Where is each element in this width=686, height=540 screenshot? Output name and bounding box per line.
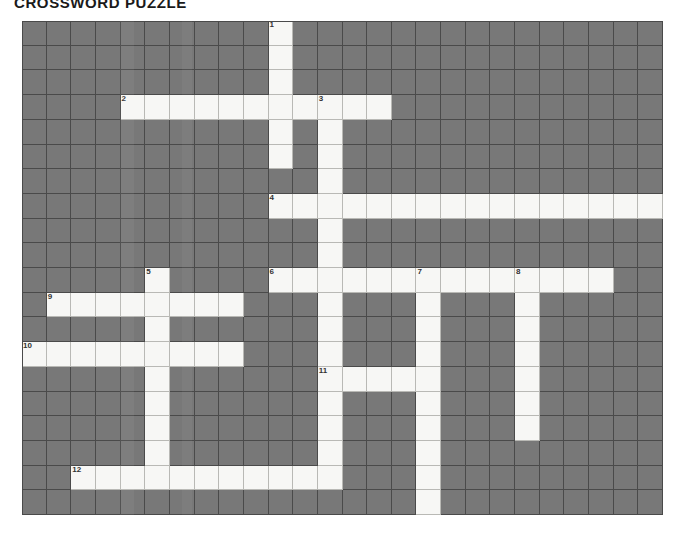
grid-cell-open[interactable] — [145, 342, 170, 367]
grid-cell-open[interactable] — [170, 342, 195, 367]
grid-cell-open[interactable] — [416, 466, 441, 491]
grid-cell-open[interactable] — [219, 95, 244, 120]
crossword-grid[interactable]: 123456789101112 — [22, 21, 663, 515]
grid-cell-open[interactable] — [121, 293, 146, 318]
grid-cell-open[interactable] — [71, 293, 96, 318]
grid-cell-open[interactable] — [145, 466, 170, 491]
grid-cell-open[interactable]: 1 — [269, 21, 294, 46]
grid-cell-open[interactable] — [145, 293, 170, 318]
grid-cell-open[interactable] — [515, 367, 540, 392]
grid-cell-open[interactable] — [47, 342, 72, 367]
grid-cell-open[interactable] — [318, 145, 343, 170]
grid-cell-open[interactable] — [490, 194, 515, 219]
grid-cell-open[interactable] — [466, 194, 491, 219]
grid-cell-open[interactable] — [219, 342, 244, 367]
grid-cell-open[interactable] — [170, 95, 195, 120]
grid-cell-open[interactable] — [318, 243, 343, 268]
grid-cell-open[interactable] — [96, 342, 121, 367]
grid-cell-open[interactable] — [318, 219, 343, 244]
grid-cell-open[interactable]: 3 — [318, 95, 343, 120]
grid-cell-open[interactable] — [145, 317, 170, 342]
grid-cell-open[interactable] — [318, 342, 343, 367]
grid-cell-open[interactable] — [170, 466, 195, 491]
grid-cell-open[interactable] — [145, 95, 170, 120]
grid-cell-open[interactable] — [195, 95, 220, 120]
grid-cell-open[interactable] — [269, 120, 294, 145]
grid-cell-open[interactable] — [416, 342, 441, 367]
grid-cell-open[interactable] — [441, 268, 466, 293]
grid-cell-open[interactable] — [515, 317, 540, 342]
grid-cell-open[interactable] — [564, 194, 589, 219]
grid-cell-open[interactable] — [367, 367, 392, 392]
grid-cell-open[interactable] — [318, 466, 343, 491]
grid-cell-open[interactable] — [515, 392, 540, 417]
grid-cell-open[interactable] — [614, 194, 639, 219]
grid-cell-open[interactable] — [367, 268, 392, 293]
grid-cell-open[interactable] — [244, 466, 269, 491]
grid-cell-open[interactable]: 4 — [269, 194, 294, 219]
grid-cell-open[interactable]: 10 — [22, 342, 47, 367]
grid-cell-open[interactable] — [318, 293, 343, 318]
grid-cell-open[interactable] — [343, 268, 368, 293]
grid-cell-open[interactable] — [195, 342, 220, 367]
grid-cell-open[interactable] — [244, 95, 269, 120]
grid-cell-open[interactable] — [564, 268, 589, 293]
grid-cell-open[interactable] — [416, 416, 441, 441]
grid-cell-open[interactable] — [515, 293, 540, 318]
grid-cell-open[interactable] — [515, 416, 540, 441]
grid-cell-open[interactable]: 5 — [145, 268, 170, 293]
grid-cell-open[interactable]: 8 — [515, 268, 540, 293]
grid-cell-open[interactable] — [269, 466, 294, 491]
grid-cell-open[interactable] — [145, 367, 170, 392]
grid-cell-open[interactable] — [515, 194, 540, 219]
grid-cell-open[interactable] — [416, 317, 441, 342]
grid-cell-open[interactable] — [318, 268, 343, 293]
grid-cell-open[interactable] — [416, 441, 441, 466]
grid-cell-open[interactable] — [589, 194, 614, 219]
grid-cell-open[interactable] — [318, 441, 343, 466]
grid-cell-open[interactable] — [392, 367, 417, 392]
grid-cell-open[interactable] — [219, 293, 244, 318]
grid-cell-open[interactable] — [589, 268, 614, 293]
grid-cell-open[interactable] — [219, 466, 244, 491]
grid-cell-open[interactable] — [416, 293, 441, 318]
grid-cell-open[interactable] — [343, 367, 368, 392]
grid-cell-open[interactable] — [170, 293, 195, 318]
grid-cell-open[interactable]: 6 — [269, 268, 294, 293]
grid-cell-open[interactable] — [269, 145, 294, 170]
grid-cell-open[interactable] — [318, 169, 343, 194]
grid-cell-open[interactable] — [96, 466, 121, 491]
grid-cell-open[interactable] — [269, 46, 294, 71]
grid-cell-open[interactable]: 12 — [71, 466, 96, 491]
grid-cell-open[interactable]: 11 — [318, 367, 343, 392]
grid-cell-open[interactable] — [343, 194, 368, 219]
grid-cell-open[interactable] — [638, 194, 663, 219]
grid-cell-open[interactable] — [195, 466, 220, 491]
grid-cell-open[interactable] — [515, 342, 540, 367]
grid-cell-open[interactable] — [540, 194, 565, 219]
grid-cell-open[interactable] — [318, 120, 343, 145]
grid-cell-open[interactable] — [318, 194, 343, 219]
grid-cell-open[interactable] — [416, 490, 441, 515]
grid-cell-open[interactable] — [293, 466, 318, 491]
grid-cell-open[interactable] — [367, 95, 392, 120]
grid-cell-open[interactable] — [367, 194, 392, 219]
grid-cell-open[interactable] — [540, 268, 565, 293]
grid-cell-open[interactable]: 2 — [121, 95, 146, 120]
grid-cell-open[interactable] — [293, 268, 318, 293]
grid-cell-open[interactable] — [392, 268, 417, 293]
grid-cell-open[interactable] — [269, 70, 294, 95]
grid-cell-open[interactable] — [318, 392, 343, 417]
grid-cell-open[interactable] — [145, 416, 170, 441]
grid-cell-open[interactable] — [145, 441, 170, 466]
grid-cell-open[interactable] — [293, 95, 318, 120]
grid-cell-open[interactable]: 7 — [416, 268, 441, 293]
grid-cell-open[interactable] — [195, 293, 220, 318]
grid-cell-open[interactable] — [269, 95, 294, 120]
grid-cell-open[interactable] — [121, 342, 146, 367]
grid-cell-open[interactable] — [466, 268, 491, 293]
grid-cell-open[interactable] — [416, 367, 441, 392]
grid-cell-open[interactable] — [293, 194, 318, 219]
grid-cell-open[interactable] — [416, 392, 441, 417]
grid-cell-open[interactable] — [490, 268, 515, 293]
